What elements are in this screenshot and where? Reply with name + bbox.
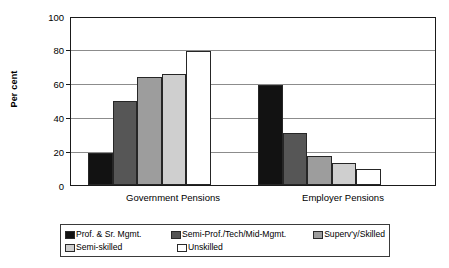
y-tick-label-80: 80: [28, 46, 64, 56]
bar-chart-figure: Per cent 100 80 60 40 20 0 Government Pe…: [0, 0, 449, 268]
legend-label-superv-skilled: Superv'y/Skilled: [324, 230, 385, 239]
y-tick-label-60: 60: [28, 80, 64, 90]
bar-government-semi-skilled: [162, 74, 187, 185]
gridline-60: [71, 84, 435, 85]
x-category-label-government: Government Pensions: [88, 192, 258, 203]
legend-row-1: Prof. & Sr. Mgmt. Semi-Prof./Tech/Mid-Mg…: [65, 228, 385, 241]
y-tick-label-0: 0: [28, 182, 64, 192]
x-category-label-employer: Employer Pensions: [258, 192, 428, 203]
legend-item-unskilled[interactable]: Unskilled: [177, 243, 223, 252]
legend-label-prof-sr-mgmt: Prof. & Sr. Mgmt.: [76, 230, 141, 239]
legend-item-superv-skilled[interactable]: Superv'y/Skilled: [313, 230, 385, 239]
legend-row-2: Semi-skilled Unskilled: [65, 241, 385, 254]
y-tick-label-40: 40: [28, 114, 64, 124]
y-tick-label-100: 100: [28, 13, 64, 23]
bar-employer-semi-skilled: [332, 163, 357, 185]
gridline-80: [71, 50, 435, 51]
legend-item-semi-prof-tech[interactable]: Semi-Prof./Tech/Mid-Mgmt.: [171, 230, 313, 239]
bar-government-prof-sr-mgmt: [88, 153, 113, 185]
legend-swatch-semi-prof-tech: [171, 231, 181, 239]
legend-label-semi-skilled: Semi-skilled: [76, 243, 122, 252]
bar-employer-prof-sr-mgmt: [258, 85, 283, 185]
bar-government-semi-prof-tech: [113, 101, 138, 185]
chart-legend: Prof. & Sr. Mgmt. Semi-Prof./Tech/Mid-Mg…: [60, 224, 390, 257]
legend-item-semi-skilled[interactable]: Semi-skilled: [65, 243, 177, 252]
y-axis-title: Per cent: [9, 49, 19, 129]
legend-swatch-prof-sr-mgmt: [65, 231, 75, 239]
legend-swatch-unskilled: [177, 244, 187, 252]
legend-item-prof-sr-mgmt[interactable]: Prof. & Sr. Mgmt.: [65, 230, 171, 239]
bar-employer-unskilled: [356, 169, 381, 185]
bar-employer-semi-prof-tech: [283, 133, 308, 185]
plot-area: [70, 17, 436, 186]
legend-swatch-semi-skilled: [65, 244, 75, 252]
legend-label-semi-prof-tech: Semi-Prof./Tech/Mid-Mgmt.: [182, 230, 286, 239]
bar-government-unskilled: [186, 51, 211, 185]
bar-employer-superv-skilled: [307, 156, 332, 185]
legend-label-unskilled: Unskilled: [188, 243, 223, 252]
bar-government-superv-skilled: [137, 77, 162, 185]
y-tick-label-20: 20: [28, 148, 64, 158]
legend-swatch-superv-skilled: [313, 231, 323, 239]
